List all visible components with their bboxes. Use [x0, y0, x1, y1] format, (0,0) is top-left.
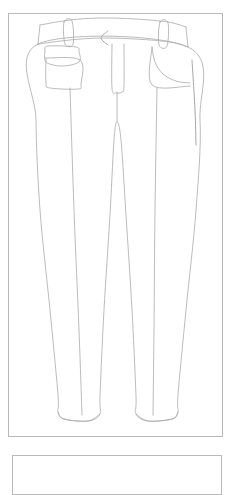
flat-line-belt-loop-left [63, 19, 73, 47]
flat-line-crease-right [153, 88, 157, 415]
flat-line-side-seam-right [192, 60, 196, 145]
flat-line-belt-loop-right [158, 20, 168, 49]
flat-line-crease-left [70, 88, 82, 415]
flat-line-waistband-right-edge [186, 27, 188, 47]
flat-line-slash-pocket-bag-right [149, 47, 190, 88]
flat-line-waistband-left-edge [38, 25, 40, 44]
flat-line-center-fly [112, 44, 124, 93]
flat-line-patch-pocket-left [46, 57, 83, 89]
flat-line-slash-pocket-right [152, 47, 190, 83]
flat-line-pocket-flap-left [44, 46, 80, 66]
flat-line-silhouette-outline [26, 36, 204, 421]
